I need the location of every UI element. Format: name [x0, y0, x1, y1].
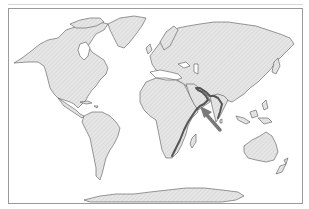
world-map: [0, 0, 309, 209]
new-zealand: [276, 158, 288, 174]
madagascar: [190, 134, 196, 148]
caribbean-islands: [80, 101, 98, 108]
british-isles: [146, 44, 152, 54]
antarctica: [84, 188, 244, 202]
south-america: [82, 112, 120, 180]
north-america: [14, 22, 108, 108]
australia: [244, 132, 278, 162]
greenland: [108, 16, 146, 48]
caspian-sea: [194, 64, 198, 74]
southeast-asia-islands: [236, 100, 272, 124]
sri-lanka: [220, 119, 222, 123]
